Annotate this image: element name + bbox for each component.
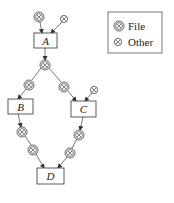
file-icon bbox=[28, 145, 38, 155]
edge-B-file5 bbox=[18, 114, 21, 127]
legend-file-label: File bbox=[128, 20, 145, 32]
legend: File Other bbox=[108, 12, 162, 53]
edge-file3-B bbox=[18, 89, 26, 99]
legend-other-label: Other bbox=[128, 36, 153, 48]
file-icon bbox=[40, 60, 50, 70]
file-icon bbox=[74, 130, 84, 140]
edge-other2-C bbox=[85, 93, 92, 101]
file-icon bbox=[17, 127, 27, 137]
node-B: B bbox=[8, 99, 33, 114]
edge-file7-file8 bbox=[72, 139, 77, 148]
node-A-label: A bbox=[41, 35, 49, 47]
other-icon bbox=[60, 15, 67, 22]
legend-file-icon bbox=[114, 21, 124, 31]
legend-other-icon bbox=[114, 38, 121, 45]
node-C-label: C bbox=[80, 103, 88, 115]
edge-file8-D bbox=[58, 157, 67, 168]
file-icon bbox=[34, 12, 44, 22]
edge-file6-D bbox=[36, 154, 44, 168]
node-D: D bbox=[37, 168, 64, 184]
node-B-label: B bbox=[17, 101, 24, 113]
node-C: C bbox=[71, 101, 96, 117]
node-A: A bbox=[34, 33, 57, 48]
edge-file4-C bbox=[68, 91, 76, 101]
edge-C-file7 bbox=[80, 117, 83, 130]
edge-other1-A bbox=[51, 22, 62, 33]
node-D-label: D bbox=[46, 170, 55, 182]
dependency-diagram: A B C D File Other bbox=[0, 0, 174, 203]
edge-file5-file6 bbox=[25, 136, 31, 145]
edge-file2-file3 bbox=[32, 68, 41, 80]
edge-file1-A bbox=[40, 22, 42, 33]
file-icon bbox=[59, 82, 69, 92]
file-icon bbox=[65, 148, 75, 158]
file-icon bbox=[24, 80, 34, 90]
edge-file2-file4 bbox=[49, 68, 61, 82]
other-icon bbox=[90, 86, 97, 93]
